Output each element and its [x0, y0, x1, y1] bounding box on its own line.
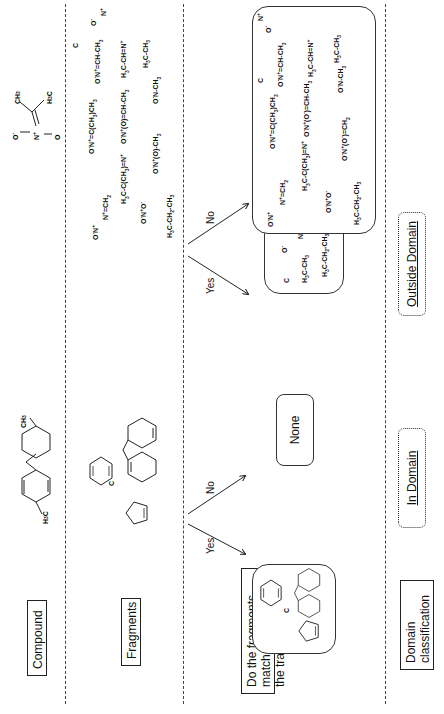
classification-text: In Domain: [405, 451, 419, 506]
fragment-carbon: C: [257, 78, 264, 83]
result-none-text: None: [288, 416, 302, 445]
edge-label-no: No: [205, 481, 216, 494]
edge-label-no: No: [205, 211, 216, 224]
benzene-ring-icon: [259, 579, 283, 607]
fragment-carbon: C: [283, 608, 290, 613]
fluorene-ring-icon: [293, 567, 325, 619]
fragment-ethane: H3C-CH3: [301, 255, 310, 283]
fragment-carbon: C: [283, 278, 290, 283]
result-box-in-yes: C: [252, 564, 336, 654]
outside-domain-badge: Outside Domain: [398, 212, 426, 316]
fragment-nitro-alkene: O-N+(O-)=CH-CH3: [301, 81, 313, 137]
fragment-nitrosonium: O-N+: [265, 212, 274, 227]
cyclopentadiene-ring-icon: [297, 619, 321, 643]
fragment-n-plus: N+: [255, 13, 264, 21]
fragment-ethane: H3C-CH3: [333, 35, 342, 63]
fragment-nitrone: O-N+=CH-CH3: [275, 42, 287, 87]
decision-arrows: [0, 0, 444, 714]
fragment-propane: H3C-CH2-CH3: [353, 182, 362, 225]
result-box-out-no: O- N+ C O-N+=CH-CH3 H3C-CH=N+ H3C-CH3 O-…: [252, 6, 376, 234]
fragment-dimethyl-iminium: H3C-C(CH3)=N+: [299, 141, 311, 191]
in-domain-badge: In Domain: [398, 428, 426, 528]
edge-label-yes: Yes: [205, 278, 216, 294]
fragment-o-minus: O-: [279, 246, 288, 253]
diagram-canvas: Compound Fragments Do the fragments matc…: [0, 0, 444, 714]
classification-text: Outside Domain: [405, 221, 419, 307]
fragment-nitro-methylene: O-N+(O-)=CH2: [339, 117, 351, 161]
fragment-o-minus: O-: [263, 26, 272, 33]
result-box-in-no: None: [276, 394, 314, 466]
fragment-methyl-amine-oxide: O-N-CH3: [335, 66, 347, 93]
fragment-nitrite: O-N+O-: [323, 191, 332, 213]
fragment-imine: H3C-CH=N+: [305, 40, 317, 77]
fragment-methylene-iminium: N+=CH2: [277, 180, 289, 205]
fragment-dimethyl-nitrone: O-N+=C(CH3)CH3: [267, 94, 279, 149]
edge-label-yes: Yes: [205, 538, 216, 554]
fragment-propane: H3C-CH2-CH3: [321, 234, 330, 277]
